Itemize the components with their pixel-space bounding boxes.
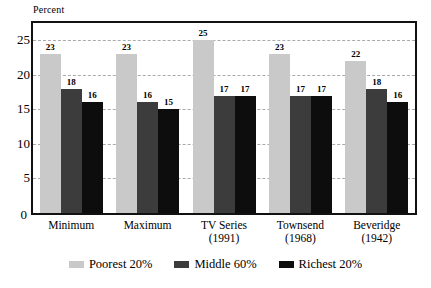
y-axis-tick-label: 5	[4, 171, 30, 184]
category-year: (1942)	[315, 232, 431, 245]
y-axis-tick-label: 25	[4, 33, 30, 46]
bar	[116, 54, 137, 213]
bar-value-label: 16	[77, 90, 108, 100]
bar	[269, 54, 290, 213]
bar	[214, 96, 235, 213]
y-axis-tick-label: 15	[4, 102, 30, 115]
bar	[137, 102, 158, 213]
y-axis-tick-label: 20	[4, 68, 30, 81]
bar-value-label: 17	[230, 84, 261, 94]
bar-value-label: 18	[56, 77, 87, 87]
plot-area: 231816231615251717231717221816	[33, 23, 415, 213]
gridline	[33, 40, 415, 41]
plot-frame: 231816231615251717231717221816	[31, 21, 417, 215]
legend-label: Middle 60%	[194, 258, 256, 271]
bar	[290, 96, 311, 213]
bar-value-label: 22	[340, 49, 371, 59]
bar	[235, 96, 256, 213]
legend-item[interactable]: Middle 60%	[174, 258, 256, 271]
bar-value-label: 18	[361, 77, 392, 87]
legend-item[interactable]: Richest 20%	[279, 258, 363, 271]
legend-swatch-icon	[69, 261, 84, 268]
legend-label: Poorest 20%	[89, 258, 153, 271]
legend-label: Richest 20%	[299, 258, 363, 271]
bar-chart: Percent 0 510152025 23181623161525171723…	[0, 0, 431, 288]
bar	[158, 109, 179, 213]
bar	[193, 40, 214, 213]
bar	[311, 96, 332, 213]
bar-value-label: 23	[111, 42, 142, 52]
y-axis-tick-label: 10	[4, 137, 30, 150]
y-axis-title: Percent	[33, 4, 64, 16]
bar-value-label: 17	[306, 84, 337, 94]
legend-swatch-icon	[279, 261, 294, 268]
chart-legend: Poorest 20%Middle 60%Richest 20%	[0, 258, 431, 271]
bar	[82, 102, 103, 213]
bar-value-label: 16	[382, 90, 413, 100]
x-axis-category-label: Beveridge(1942)	[315, 219, 431, 245]
bar-value-label: 15	[153, 97, 184, 107]
bar	[366, 89, 387, 213]
category-name: Beveridge	[353, 219, 400, 231]
legend-item[interactable]: Poorest 20%	[69, 258, 153, 271]
bar-value-label: 25	[188, 28, 219, 38]
bar-value-label: 23	[35, 42, 66, 52]
bar-value-label: 23	[264, 42, 295, 52]
bar	[61, 89, 82, 213]
bar	[387, 102, 408, 213]
legend-swatch-icon	[174, 261, 189, 268]
